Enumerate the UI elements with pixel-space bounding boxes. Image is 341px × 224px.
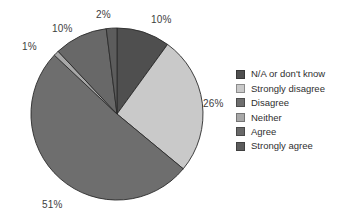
pie-slice-value-label: 26%	[203, 99, 224, 109]
pie-slice-value-label: 1%	[22, 42, 37, 52]
legend-item: Strongly disagree	[236, 81, 340, 95]
pie-slice-value-label: 2%	[96, 10, 111, 20]
legend-item: Neither	[236, 110, 340, 124]
legend-color-swatch	[236, 98, 245, 107]
legend-color-swatch	[236, 127, 245, 136]
legend-item-label: Strongly agree	[251, 141, 313, 151]
legend-color-swatch	[236, 113, 245, 122]
legend-color-swatch	[236, 70, 245, 79]
legend-item-label: Agree	[251, 127, 276, 137]
legend-item-label: N/A or don't know	[251, 69, 325, 79]
legend-item: N/A or don't know	[236, 67, 340, 81]
legend-item-label: Strongly disagree	[251, 84, 325, 94]
pie-chart: 10%26%51%1%10%2% N/A or don't knowStrong…	[0, 0, 341, 224]
legend-item-label: Disagree	[251, 98, 289, 108]
legend-item-label: Neither	[251, 113, 282, 123]
pie-slice-value-label: 51%	[42, 200, 63, 210]
legend-item: Agree	[236, 125, 340, 139]
pie-slice-value-label: 10%	[151, 15, 172, 25]
legend-item: Disagree	[236, 96, 340, 110]
legend-color-swatch	[236, 142, 245, 151]
pie-slice-value-label: 10%	[52, 24, 73, 34]
chart-legend: N/A or don't knowStrongly disagreeDisagr…	[236, 67, 340, 153]
legend-color-swatch	[236, 84, 245, 93]
legend-item: Strongly agree	[236, 139, 340, 153]
